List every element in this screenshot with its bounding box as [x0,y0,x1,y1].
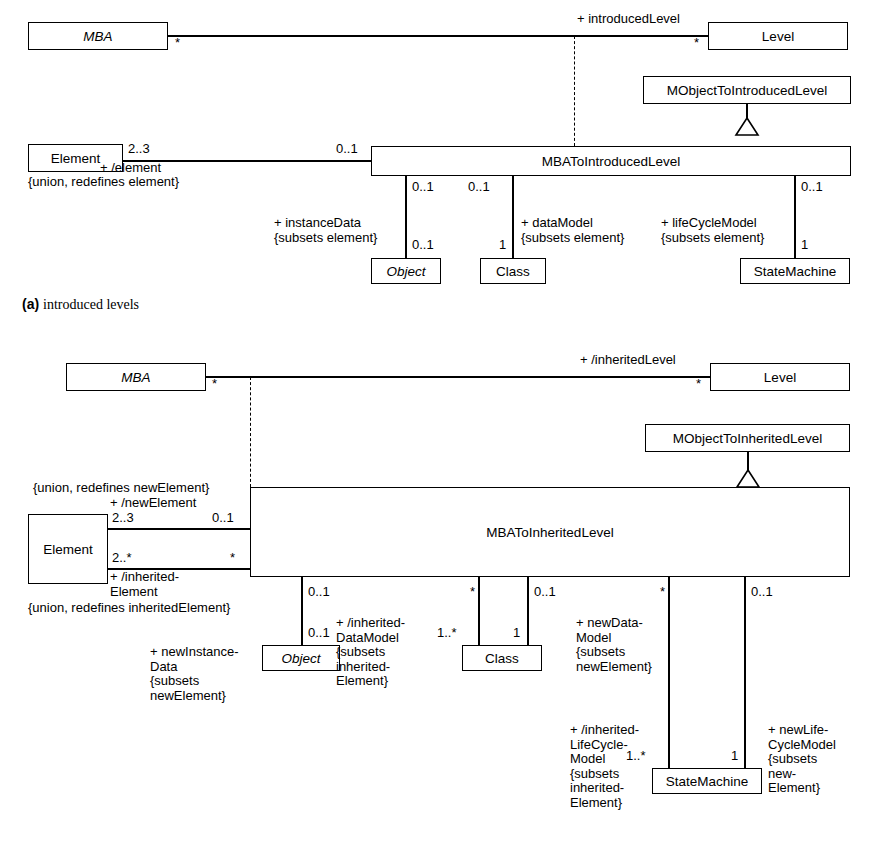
class-name-label: MBA [121,370,150,385]
class-box-mba-b: MBA [66,363,206,391]
multiplicity-element-bottom-b: 2..* [112,551,132,565]
association-line-mba-level-b [206,376,710,378]
uml-figure-canvas: MBA Level * * + introducedLevel MObjectT… [0,0,871,865]
class-name-label: MObjectToInheritedLevel [673,431,822,446]
class-box-statemachine-b: StateMachine [652,768,762,794]
association-line-inherited-data-model-b [478,577,480,645]
association-line-new-data-model-b [527,577,529,645]
multiplicity-element-end-a: 2..3 [128,142,150,156]
multiplicity-mba-end-b: * [212,377,217,391]
class-name-label: Element [51,151,101,166]
multiplicity-life-cycle-model-bottom-a: 1 [801,238,808,252]
role-label-new-data-model: + newData- Model {subsets newElement} [576,616,652,674]
role-label-life-cycle-model: + lifeCycleModel [661,216,757,231]
constraint-label-instance-data: {subsets element} [274,231,377,246]
class-name-label: MBAToIntroducedLevel [542,154,681,169]
class-box-class-a: Class [480,258,546,284]
class-box-mba-to-introduced-level: MBAToIntroducedLevel [371,146,851,176]
class-name-label: Element [43,542,93,557]
association-line-new-element-b [108,528,250,530]
generalization-triangle-a [735,118,759,136]
role-label-data-model: + dataModel [521,216,593,231]
association-line-data-model-a [512,176,514,258]
multiplicity-new-life-cycle-model-top-b: 0..1 [751,585,773,599]
constraint-label-life-cycle-model: {subsets element} [661,231,764,246]
multiplicity-instance-data-top-a: 0..1 [412,180,434,194]
class-box-mobject-to-inherited-level: MObjectToInheritedLevel [645,424,850,452]
class-name-label: Level [764,370,796,385]
constraint-label-new-element: {union, redefines newElement} [33,481,209,496]
class-box-mobject-to-introduced-level: MObjectToIntroducedLevel [643,76,851,104]
association-line-life-cycle-model-a [794,176,796,258]
role-label-inherited-life-cycle-model: + /inherited- LifeCycle- Model {subsets … [570,723,639,810]
role-label-inherited-data-model: + /inherited- DataModel {subsets inherit… [336,616,405,689]
multiplicity-level-end-b: * [696,377,701,391]
multiplicity-new-data-model-top-b: 0..1 [534,585,556,599]
class-box-object-b: Object [262,645,340,671]
figure-caption-a: (a) introduced levels [22,296,139,313]
figure-caption-a-text: introduced levels [43,297,139,312]
role-label-introduced-level: + introducedLevel [577,12,680,27]
multiplicity-data-model-bottom-a: 1 [499,238,506,252]
multiplicity-new-instance-data-top-b: 0..1 [308,585,330,599]
association-line-mba-level-a [168,35,708,37]
class-box-element-b: Element [28,514,108,584]
figure-caption-a-label: (a) [22,296,39,312]
multiplicity-new-instance-data-bottom-b: 0..1 [308,626,330,640]
class-name-label: Class [496,264,530,279]
generalization-triangle-b [736,470,760,488]
class-name-label: Class [485,651,519,666]
class-name-label: MBA [83,29,112,44]
class-box-class-b: Class [462,645,542,671]
class-name-label: Level [762,29,794,44]
association-class-dashed-line-a [574,36,575,146]
constraint-label-data-model: {subsets element} [521,231,624,246]
multiplicity-instance-data-bottom-a: 0..1 [412,238,434,252]
class-name-label: StateMachine [666,774,749,789]
multiplicity-life-cycle-model-top-a: 0..1 [801,180,823,194]
role-label-inherited-level: + /inheritedLevel [580,353,676,368]
multiplicity-assoc-new-element-end-b: 0..1 [212,511,234,525]
role-label-new-element: + /newElement [110,496,196,511]
multiplicity-inherited-data-model-bottom-b: 1..* [437,626,457,640]
multiplicity-level-end-a: * [694,36,699,50]
class-name-label: MObjectToIntroducedLevel [667,83,828,98]
association-line-instance-data-a [405,176,407,258]
constraint-label-inherited-element: {union, redefines inheritedElement} [28,601,230,616]
class-name-label: Object [386,264,425,279]
class-box-mba-a: MBA [28,22,168,50]
multiplicity-mba-end-a: * [175,36,180,50]
multiplicity-assoc-inherited-element-end-b: * [230,551,235,565]
multiplicity-new-data-model-bottom-b: 1 [513,626,520,640]
role-label-new-instance-data: + newInstance- Data {subsets newElement} [150,645,239,703]
multiplicity-data-model-top-a: 0..1 [468,180,490,194]
multiplicity-inherited-life-cycle-model-top-b: * [660,585,665,599]
class-box-object-a: Object [371,258,441,284]
class-box-mba-to-inherited-level: MBAToInheritedLevel [250,487,850,577]
role-label-instance-data: + instanceData [274,216,361,231]
association-line-inherited-life-cycle-model-b [668,577,670,768]
class-name-label: MBAToInheritedLevel [486,525,613,540]
class-name-label: Object [281,651,320,666]
role-label-inherited-element: + /inherited- Element [110,570,179,599]
multiplicity-element-top-b: 2..3 [112,511,134,525]
association-line-new-instance-data-b [301,577,303,645]
constraint-label-element-a: {union, redefines element} [28,175,179,190]
association-line-new-life-cycle-model-b [744,577,746,768]
class-box-level-b: Level [710,363,850,391]
role-label-new-life-cycle-model: + newLife- CycleModel {subsets new- Elem… [768,723,836,796]
class-box-statemachine-a: StateMachine [740,258,850,284]
association-class-dashed-line-b [250,377,251,487]
class-box-level-a: Level [708,22,848,50]
class-name-label: StateMachine [754,264,837,279]
multiplicity-inherited-data-model-top-b: * [470,585,475,599]
multiplicity-new-life-cycle-model-bottom-b: 1 [731,749,738,763]
multiplicity-assoc-left-end-a: 0..1 [336,142,358,156]
